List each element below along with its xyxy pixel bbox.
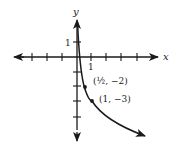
y-tick-label-1: 1 xyxy=(65,38,71,48)
point-label-half-neg2: (½, −2) xyxy=(93,76,128,86)
x-axis-label: x xyxy=(163,51,169,62)
x-axis: x 1 xyxy=(14,51,169,72)
point-label-1-neg3: (1, −3) xyxy=(99,94,131,104)
point-1-neg3 xyxy=(90,99,94,103)
function-graph: x 1 y 1 (½, −2) (1, −3) xyxy=(0,0,177,151)
point-half-neg2 xyxy=(83,85,87,89)
y-axis-label: y xyxy=(72,6,79,17)
x-tick-label-1: 1 xyxy=(88,62,94,72)
y-axis: y 1 xyxy=(65,6,81,141)
